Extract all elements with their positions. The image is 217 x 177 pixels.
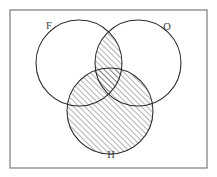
venn-diagram-figure: F O H (0, 0, 217, 177)
set-label-o: O (163, 21, 171, 32)
venn-diagram-canvas: F O H (0, 0, 217, 177)
set-label-f: F (46, 20, 52, 31)
set-label-h: H (107, 149, 115, 160)
